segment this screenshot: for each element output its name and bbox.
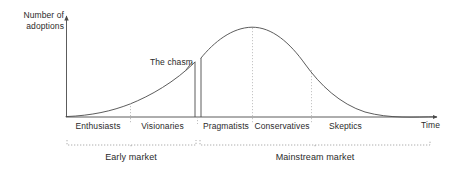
y-axis-title: Number of adoptions xyxy=(0,10,64,32)
adoption-lifecycle-diagram: Number of adoptions Time The chasm Enthu… xyxy=(0,0,458,171)
adoption-curve-chart xyxy=(0,0,458,171)
segment-label-skeptics: Skeptics xyxy=(311,121,380,132)
segment-label-visionaries: Visionaries xyxy=(130,121,195,132)
y-axis-title-line-1: Number of xyxy=(0,10,64,21)
y-axis-title-line-2: adoptions xyxy=(0,21,64,32)
curve-early-segment xyxy=(66,62,195,117)
curve-mainstream-segment xyxy=(201,27,436,117)
segment-label-pragmatists: Pragmatists xyxy=(199,121,253,132)
early-market-bracket xyxy=(67,140,196,145)
chasm-annotation-label: The chasm xyxy=(150,57,193,68)
segment-label-conservatives: Conservatives xyxy=(252,121,312,132)
market-label-early: Early market xyxy=(66,152,196,163)
market-label-mainstream: Mainstream market xyxy=(200,152,430,163)
mainstream-market-bracket xyxy=(200,140,430,145)
x-axis-title: Time xyxy=(421,120,440,131)
segment-label-enthusiasts: Enthusiasts xyxy=(66,121,130,132)
